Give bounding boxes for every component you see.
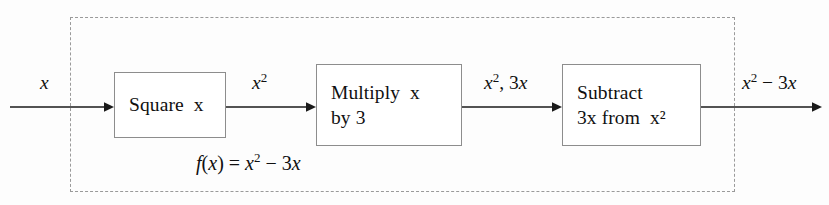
process-box-multiply-line-1: Multiply x <box>331 80 461 105</box>
signal-label-output: x2 − 3x <box>742 72 796 94</box>
process-box-multiply[interactable]: Multiply x by 3 <box>316 64 462 146</box>
output-arrow <box>701 101 822 113</box>
process-box-square-line-1: Square x <box>129 92 225 117</box>
process-box-subtract[interactable]: Subtract 3x from x² <box>562 64 701 146</box>
process-box-square[interactable]: Square x <box>114 72 226 138</box>
diagram-canvas: x Square x x2 Multiply x by 3 x2, 3x Sub… <box>0 0 829 205</box>
signal-label-after-multiply: x2, 3x <box>484 72 527 94</box>
function-formula-caption: f(x) = x2 − 3x <box>196 152 301 175</box>
process-box-subtract-line-1: Subtract <box>577 80 700 105</box>
multiply-to-subtract-arrow <box>462 101 562 113</box>
input-arrow <box>10 101 114 113</box>
process-box-multiply-line-2: by 3 <box>331 105 461 130</box>
signal-label-input: x <box>40 72 49 94</box>
process-box-subtract-line-2: 3x from x² <box>577 105 700 130</box>
signal-label-after-square: x2 <box>252 72 267 94</box>
square-to-multiply-arrow <box>226 101 316 113</box>
